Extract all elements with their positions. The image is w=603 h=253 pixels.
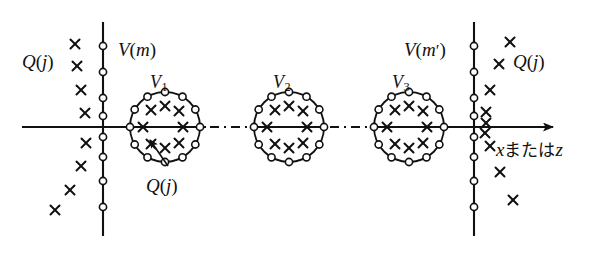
boundary-node-V3 [370, 123, 377, 130]
vertical-node-left [99, 68, 106, 75]
vertical-node-right [470, 68, 477, 75]
boundary-node-V3 [375, 141, 382, 148]
boundary-node-V3 [405, 158, 412, 165]
boundary-node-V2 [285, 158, 292, 165]
vertical-node-left [99, 133, 106, 140]
boundary-node-V3 [436, 106, 443, 113]
vertical-node-left [99, 42, 106, 49]
label-q-j-right: Q(j) [513, 52, 545, 71]
boundary-node-V2 [255, 141, 262, 148]
boundary-node-V2 [250, 123, 257, 130]
boundary-node-V1 [131, 141, 138, 148]
boundary-node-V1 [144, 93, 151, 100]
boundary-node-V3 [440, 123, 447, 130]
vertical-node-left [99, 94, 106, 101]
figure-canvas: V(m) V(m′) V1 V2 V3 Q(j) Q(j) Q(j) xまたはz [0, 0, 603, 253]
boundary-node-V3 [388, 154, 395, 161]
vertical-node-right [470, 153, 477, 160]
label-v-m-prime: V(m′) [404, 40, 446, 59]
vertical-node-left [99, 177, 106, 184]
label-q-j-left: Q(j) [22, 52, 54, 71]
vertical-node-right [470, 203, 477, 210]
boundary-node-V2 [316, 106, 323, 113]
boundary-node-V1 [126, 123, 133, 130]
diagram-svg [0, 0, 603, 253]
label-v1: V1 [150, 73, 168, 94]
boundary-node-V2 [255, 106, 262, 113]
boundary-node-V1 [179, 154, 186, 161]
boundary-node-V1 [192, 106, 199, 113]
boundary-node-V1 [179, 93, 186, 100]
label-v2: V2 [273, 73, 291, 94]
boundary-node-V1 [192, 141, 199, 148]
vertical-node-left [99, 203, 106, 210]
label-v3: V3 [392, 73, 410, 94]
boundary-node-V2 [268, 93, 275, 100]
boundary-node-V1 [131, 106, 138, 113]
boundary-node-V3 [375, 106, 382, 113]
vertical-node-right [470, 177, 477, 184]
boundary-node-V2 [303, 93, 310, 100]
boundary-node-V2 [268, 154, 275, 161]
vertical-node-right [470, 94, 477, 101]
boundary-node-V1 [196, 123, 203, 130]
label-v-m: V(m) [118, 40, 156, 59]
boundary-node-V1 [144, 154, 151, 161]
boundary-node-V2 [316, 141, 323, 148]
boundary-node-V3 [423, 154, 430, 161]
label-q-j-callout: Q(j) [146, 176, 178, 195]
boundary-node-V2 [320, 123, 327, 130]
boundary-node-V3 [436, 141, 443, 148]
boundary-node-V3 [388, 93, 395, 100]
vertical-node-right [470, 42, 477, 49]
vertical-node-left [99, 153, 106, 160]
vertical-node-left [99, 112, 106, 119]
boundary-node-V2 [303, 154, 310, 161]
boundary-node-V3 [423, 93, 430, 100]
vertical-node-right [470, 133, 477, 140]
vertical-node-right [470, 112, 477, 119]
label-axis-x-or-z: xまたはz [496, 140, 563, 159]
